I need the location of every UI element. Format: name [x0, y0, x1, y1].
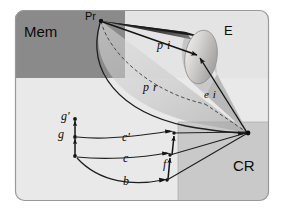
label-e: E: [224, 24, 233, 37]
label-g: g: [58, 128, 64, 140]
point-b-origin: [73, 154, 77, 158]
label-f: f: [163, 158, 166, 170]
label-pr-point: Pr: [85, 11, 96, 22]
label-mem: Mem: [24, 24, 57, 39]
point-cr-vertex: [246, 131, 251, 136]
point-pr-apex: [99, 19, 103, 23]
label-pi: p i: [157, 39, 171, 51]
label-c-prime: c': [122, 131, 130, 143]
point-g: [73, 135, 77, 139]
label-g-prime: g': [61, 110, 70, 122]
label-c: c: [123, 152, 128, 164]
cr-region: [178, 122, 269, 201]
figure-canvas: Mem Pr E CR p i p r e i g' g c' c b f: [0, 0, 285, 211]
label-pr: p r: [143, 81, 158, 93]
label-cr: CR: [233, 158, 255, 173]
label-ei: e i: [204, 89, 216, 100]
point-g-prime: [73, 117, 77, 121]
label-b: b: [123, 175, 129, 187]
